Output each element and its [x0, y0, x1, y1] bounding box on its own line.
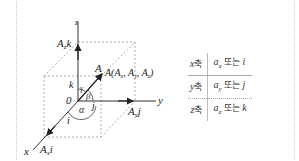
- x-axis-label: x: [23, 145, 29, 157]
- unit-subscript: x: [218, 62, 221, 70]
- or-text: 또는: [224, 103, 240, 113]
- vector-a-point-label: A(Ax, Ay, Az): [104, 67, 154, 79]
- table-row: y축 ay 또는 j: [188, 76, 252, 99]
- x-component-label: Axi: [39, 143, 53, 157]
- y-component-label: Ayj: [127, 105, 141, 119]
- angle-alpha-label: α: [79, 104, 85, 115]
- origin-label: 0: [66, 94, 72, 106]
- unit-k-label: k: [69, 79, 74, 90]
- z-component-label: Azk: [56, 37, 72, 51]
- angle-gamma-label: γ: [80, 84, 84, 93]
- unit-subscript: y: [218, 85, 221, 93]
- vector-a-label: A: [94, 62, 102, 74]
- unit-j-label: j: [90, 100, 95, 111]
- or-text: 또는: [224, 80, 240, 90]
- table-row: z축 az 또는 k: [188, 99, 252, 122]
- or-text: 또는: [224, 57, 240, 67]
- axis-suffix: 축: [194, 59, 202, 69]
- unit-vector: j: [243, 79, 246, 90]
- unit-i-label: i: [67, 115, 70, 126]
- unit-subscript: z: [218, 108, 221, 116]
- component-arrows: [47, 45, 133, 135]
- unit-vector-table: x축 ax 또는 i y축 ay 또는 j z축 az 또는 k: [188, 53, 252, 121]
- table-row: x축 ax 또는 i: [188, 53, 252, 76]
- axis-suffix: 축: [194, 82, 202, 92]
- unit-vector: i: [243, 56, 246, 67]
- y-axis-label: y: [157, 94, 163, 106]
- vector-components-diagram: z y x 0 Azk Ayj Axi A A(Ax, Ay, Az) k j …: [0, 0, 299, 161]
- angle-beta-label: β: [85, 91, 91, 101]
- unit-vector: k: [242, 102, 246, 113]
- axis-suffix: 축: [194, 105, 202, 115]
